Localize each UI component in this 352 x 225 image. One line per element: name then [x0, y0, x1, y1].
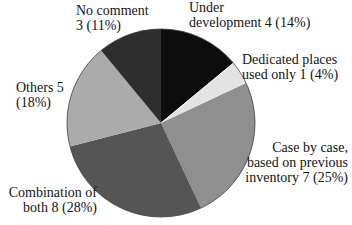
slice-label-line: Case by case,: [234, 140, 348, 155]
slice-label-dedicated-places: Dedicated places used only 1 (4%): [242, 52, 338, 82]
slice-label-others: Others 5 (18%): [16, 80, 64, 110]
slice-label-line: 3 (11%): [76, 18, 149, 33]
slice-label-no-comment: No comment 3 (11%): [76, 3, 149, 33]
slice-label-line: based on previous: [234, 155, 348, 170]
slice-label-line: both 8 (28%): [0, 200, 97, 215]
slice-label-line: used only 1 (4%): [242, 67, 338, 82]
slice-label-line: Dedicated places: [242, 52, 338, 67]
slice-label-line: inventory 7 (25%): [234, 170, 348, 185]
slice-label-line: (18%): [16, 95, 64, 110]
slice-label-under-development: Under development 4 (14%): [189, 0, 310, 30]
slice-label-line: development 4 (14%): [189, 15, 310, 30]
slice-label-line: Others 5: [16, 80, 64, 95]
slice-label-line: Combination of: [0, 185, 97, 200]
slice-label-combination: Combination of both 8 (28%): [0, 185, 97, 215]
slice-label-line: No comment: [76, 3, 149, 18]
slice-label-line: Under: [189, 0, 310, 15]
slice-label-case-by-case: Case by case, based on previous inventor…: [234, 140, 348, 185]
pie-chart-figure: No comment 3 (11%) Under development 4 (…: [0, 0, 352, 225]
